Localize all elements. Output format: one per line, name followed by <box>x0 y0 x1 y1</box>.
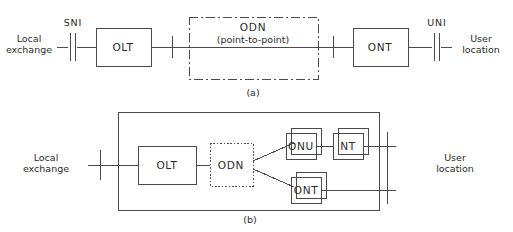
panel-a-left-label: Local exchange <box>6 33 52 55</box>
panel-a-left-label-line2: exchange <box>6 44 52 55</box>
reference-point-uni-label: UNI <box>427 17 447 28</box>
panel-a-right-label-line1: User <box>462 33 500 44</box>
node-olt-a-label: OLT <box>112 41 133 53</box>
panel-a-right-label: User location <box>462 33 500 55</box>
panel-b-caption: (b) <box>243 214 256 225</box>
node-odn-a-sublabel: (point-to-point) <box>217 34 289 45</box>
panel-b-left-label-line1: Local <box>23 152 69 163</box>
node-ont-a-label: ONT <box>368 41 393 53</box>
node-odn-a-label: ODN <box>240 21 267 33</box>
panel-b-right-label-line2: location <box>436 163 474 174</box>
panel-b-right-label: User location <box>436 152 474 174</box>
panel-b-left-label-line2: exchange <box>23 163 69 174</box>
panel-b-right-label-line1: User <box>436 152 474 163</box>
panel-a-right-label-line2: location <box>462 44 500 55</box>
panel-b-left-label: Local exchange <box>23 152 69 174</box>
node-onu-b-label: ONU <box>288 140 314 152</box>
panel-a-caption: (a) <box>246 87 259 98</box>
branch-to-ont-b <box>253 169 294 187</box>
panel-a-left-label-line1: Local <box>6 33 52 44</box>
node-odn-b-label: ODN <box>218 159 244 171</box>
node-nt-b-label: NT <box>340 140 356 152</box>
figure-canvas: Local exchange SNI OLT ODN (point-to-poi… <box>0 0 513 232</box>
reference-point-sni-label: SNI <box>64 17 83 28</box>
node-olt-b-label: OLT <box>156 159 177 171</box>
node-ont-b-label: ONT <box>294 184 319 196</box>
